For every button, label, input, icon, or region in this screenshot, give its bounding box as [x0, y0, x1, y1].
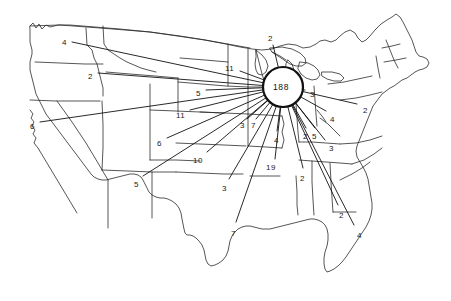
state-line-ny-ne [376, 56, 380, 78]
state-line-va-nc [340, 136, 382, 144]
state-line-nv-ut [102, 101, 103, 170]
state-line-la-ms [296, 176, 298, 215]
state-line-sd-ne [178, 82, 248, 87]
flow-label-oklahoma: 3 [222, 185, 227, 193]
lead-sd [206, 88, 264, 90]
flow-label-washington: 4 [62, 39, 67, 47]
flow-label-tennessee: 3 [329, 145, 334, 153]
flow-label-texas: 7 [231, 230, 236, 238]
state-line-mi-up [272, 52, 286, 60]
flow-label-arkansas: 19 [266, 164, 276, 172]
lead-ca [40, 90, 264, 122]
us-map-svg [0, 0, 451, 301]
flow-label-indiana: 2 [303, 133, 308, 141]
flow-label-mississippi: 2 [300, 175, 305, 183]
flow-label-ohio: 4 [330, 116, 335, 124]
flow-label-south-dakota: 5 [196, 90, 201, 98]
state-line-ne-states [386, 40, 398, 68]
state-line-ne-states2 [382, 44, 400, 48]
lake-ontario [322, 72, 344, 81]
flow-label-kansas: 10 [193, 157, 203, 165]
state-line-mo-ar [248, 146, 282, 148]
lead-fl [292, 104, 354, 225]
lead-ne [190, 92, 265, 110]
state-line-ms-al [312, 161, 314, 215]
lead-can [273, 45, 279, 69]
state-line-ca-nv [57, 101, 108, 180]
state-line-mo-il [282, 116, 284, 148]
flow-label-new-mexico: 5 [134, 181, 139, 189]
state-line-sc-ga [340, 162, 370, 180]
state-line-pa-md [340, 92, 382, 100]
flow-label-pennsylvania: 2 [363, 107, 368, 115]
flow-label-michigan: 3 [310, 91, 315, 99]
flow-label-kentucky: 5 [312, 133, 317, 141]
state-line-co-nm [102, 170, 176, 172]
state-line-mt-id [103, 26, 156, 72]
flow-label-colorado: 6 [157, 140, 162, 148]
hub-value-label: 188 [273, 83, 289, 92]
state-line-al-ga [330, 163, 333, 212]
state-line-wa-or [35, 62, 103, 64]
state-line-oh-wv [317, 110, 326, 122]
flow-label-north: 2 [268, 35, 273, 43]
state-line-ks-ok [176, 143, 246, 146]
state-line-or-ca [30, 100, 100, 101]
state-line-mt-wy [106, 72, 178, 78]
flow-map-figure: 42656511112103374197225432324 188 [0, 0, 451, 301]
flow-label-florida: 4 [357, 232, 362, 240]
lead-id [98, 73, 264, 86]
state-line-tn-ms-al [299, 160, 352, 164]
state-line-mn-wi [256, 50, 264, 80]
flow-lines-group [40, 42, 357, 225]
flow-label-california: 6 [30, 123, 35, 131]
flow-label-nebraska: 11 [176, 112, 185, 120]
map-outline-group [30, 14, 429, 272]
lead-ar [275, 106, 281, 159]
state-line-ia-mo [248, 114, 282, 116]
flow-label-illinois: 7 [251, 122, 256, 130]
flow-label-missouri: 4 [274, 137, 279, 145]
flow-label-idaho: 2 [88, 73, 93, 81]
outline-ca-coast [30, 110, 77, 213]
state-line-nd-sd [180, 58, 228, 62]
flow-label-georgia: 2 [339, 212, 344, 220]
flow-label-minnesota: 11 [225, 65, 234, 73]
flow-label-iowa: 3 [240, 122, 245, 130]
outline-national [30, 14, 429, 272]
state-line-idaho-w [86, 28, 103, 96]
lead-ms [288, 105, 303, 168]
state-line-pa-ny [328, 76, 372, 84]
